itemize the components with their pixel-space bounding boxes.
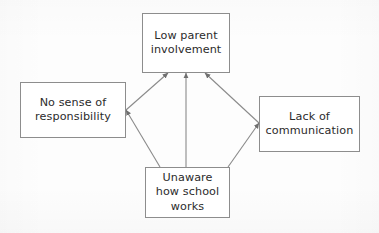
node-label-no-sense-of-responsibility: No sense of responsibility: [35, 96, 111, 125]
node-label-low-parent-involvement: Low parent involvement: [151, 29, 222, 58]
diagram-canvas: Low parent involvementNo sense of respon…: [0, 0, 379, 233]
node-unaware-how-school-works[interactable]: Unaware how school works: [145, 167, 230, 218]
node-no-sense-of-responsibility[interactable]: No sense of responsibility: [20, 82, 126, 138]
node-lack-of-communication[interactable]: Lack of communication: [259, 96, 360, 152]
edge-unaware-to-communication: [228, 123, 259, 167]
node-low-parent-involvement[interactable]: Low parent involvement: [142, 13, 230, 73]
node-label-lack-of-communication: Lack of communication: [266, 110, 354, 139]
edge-communication-to-involvement: [205, 73, 259, 123]
edge-unaware-to-responsibility: [126, 110, 160, 167]
node-label-unaware-how-school-works: Unaware how school works: [156, 171, 220, 215]
edge-responsibility-to-involvement: [126, 73, 168, 110]
